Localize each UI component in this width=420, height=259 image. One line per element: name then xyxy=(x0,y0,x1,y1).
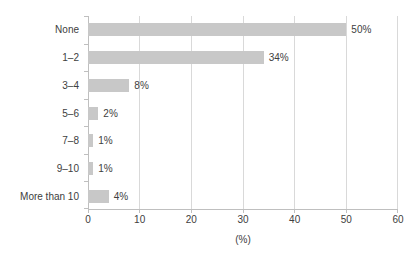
data-label: 1% xyxy=(98,135,112,146)
x-tick-label: 0 xyxy=(85,214,91,225)
bar xyxy=(88,23,346,36)
bar xyxy=(88,107,98,120)
bar-track: 34% xyxy=(88,44,398,72)
category-label: None xyxy=(0,24,88,35)
x-tick-label: 20 xyxy=(186,214,197,225)
chart-row: 1–234% xyxy=(0,44,420,72)
data-label: 50% xyxy=(351,24,371,35)
bar-chart: None50%1–234%3–48%5–62%7–81%9–101%More t… xyxy=(0,0,420,259)
chart-row: More than 104% xyxy=(0,182,420,210)
chart-row: 7–81% xyxy=(0,127,420,155)
chart-row: 9–101% xyxy=(0,155,420,183)
x-tick-label: 50 xyxy=(341,214,352,225)
bar xyxy=(88,79,129,92)
category-label: 7–8 xyxy=(0,135,88,146)
category-label: 1–2 xyxy=(0,52,88,63)
chart-row: 3–48% xyxy=(0,71,420,99)
chart-rows: None50%1–234%3–48%5–62%7–81%9–101%More t… xyxy=(0,16,420,210)
x-axis-tick-labels: 0102030405060 xyxy=(88,214,398,226)
bar-track: 1% xyxy=(88,155,398,183)
data-label: 1% xyxy=(98,163,112,174)
bar-track: 4% xyxy=(88,182,398,210)
bar-track: 50% xyxy=(88,16,398,44)
x-axis-title: (%) xyxy=(88,234,398,245)
bar xyxy=(88,134,93,147)
x-tick-label: 40 xyxy=(289,214,300,225)
chart-row: None50% xyxy=(0,16,420,44)
chart-row: 5–62% xyxy=(0,99,420,127)
data-label: 2% xyxy=(103,108,117,119)
data-label: 4% xyxy=(114,191,128,202)
category-label: 3–4 xyxy=(0,80,88,91)
bar xyxy=(88,51,264,64)
bar-track: 2% xyxy=(88,99,398,127)
x-tick-label: 30 xyxy=(237,214,248,225)
x-tick-label: 10 xyxy=(134,214,145,225)
x-tick-label: 60 xyxy=(392,214,403,225)
bar-track: 1% xyxy=(88,127,398,155)
bar xyxy=(88,190,109,203)
bar xyxy=(88,162,93,175)
category-label: 9–10 xyxy=(0,163,88,174)
data-label: 8% xyxy=(134,80,148,91)
category-label: More than 10 xyxy=(0,191,88,202)
category-label: 5–6 xyxy=(0,108,88,119)
bar-track: 8% xyxy=(88,71,398,99)
data-label: 34% xyxy=(269,52,289,63)
